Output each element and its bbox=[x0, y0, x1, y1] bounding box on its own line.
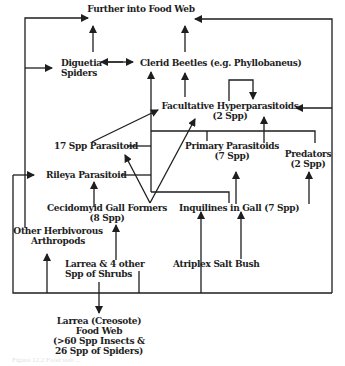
edge-frame-left-to-further bbox=[25, 18, 88, 228]
node-inquilines-in-gall: Inquilines in Gall (7 Spp) bbox=[179, 203, 299, 213]
node-label-line2: (2 Spp) bbox=[285, 159, 332, 169]
node-label-line1: Diguetia bbox=[61, 58, 102, 68]
node-17-spp-parasitoid: 17 Spp Parasitoid bbox=[54, 141, 138, 151]
node-label-line4: 26 Spp of Spiders) bbox=[53, 346, 145, 356]
node-label: Rileya Parasitoid bbox=[46, 170, 126, 180]
node-label-line3: (>60 Spp Insects & bbox=[53, 336, 145, 346]
node-primary-parasitoids: Primary Parasitoids(7 Spp) bbox=[185, 141, 279, 161]
node-label-line2: Spp of Shrubs bbox=[65, 269, 144, 279]
node-label-line2: (2 Spp) bbox=[161, 111, 298, 121]
node-further-into-food-web: Further into Food Web bbox=[87, 4, 195, 14]
node-atriplex-salt-bush: Atriplex Salt Bush bbox=[173, 259, 259, 269]
node-label: Clerid Beetles (e.g. Phyllobaneus) bbox=[140, 58, 302, 68]
edge-17spp-facultative bbox=[92, 110, 158, 142]
node-label-line2: Arthropods bbox=[13, 236, 102, 246]
node-label-line1: Predators bbox=[285, 149, 332, 159]
node-predators: Predators(2 Spp) bbox=[285, 149, 332, 169]
node-larrea-creosote-food-web: Larrea (Creosote)Food Web(>60 Spp Insect… bbox=[53, 316, 145, 356]
node-facultative-hyperparasitoids: Facultative Hyperparasitoids(2 Spp) bbox=[161, 101, 298, 121]
edge-cecid-17spp bbox=[125, 155, 150, 203]
node-clerid-beetles: Clerid Beetles (e.g. Phyllobaneus) bbox=[140, 58, 302, 68]
node-label-line1: Facultative Hyperparasitoids bbox=[161, 101, 298, 111]
node-larrea-shrubs: Larrea & 4 otherSpp of Shrubs bbox=[65, 259, 144, 279]
figure-caption: Figure 12.2 Food web ... bbox=[12, 356, 81, 364]
node-label: Further into Food Web bbox=[87, 4, 195, 14]
node-label: Atriplex Salt Bush bbox=[173, 259, 259, 269]
node-label-line2: (8 Spp) bbox=[47, 213, 167, 223]
node-label: 17 Spp Parasitoid bbox=[54, 141, 138, 151]
node-other-herbivorous-arthropods: Other HerbivorousArthropods bbox=[13, 226, 102, 246]
node-rileya-parasitoid: Rileya Parasitoid bbox=[46, 170, 126, 180]
node-label-line1: Larrea (Creosote) bbox=[53, 316, 145, 326]
food-web-diagram bbox=[0, 0, 345, 366]
edge-facultative-self-loop bbox=[229, 80, 253, 101]
node-label-line1: Cecidomyid Gall Formers bbox=[47, 203, 167, 213]
node-cecidomyid-gall-formers: Cecidomyid Gall Formers(8 Spp) bbox=[47, 203, 167, 223]
node-diguetia-spiders: DiguetiaSpiders bbox=[61, 58, 102, 78]
node-label-line1: Primary Parasitoids bbox=[185, 141, 279, 151]
node-label: Inquilines in Gall (7 Spp) bbox=[179, 203, 299, 213]
node-label-line2: Spiders bbox=[61, 68, 102, 78]
node-label-line2: (7 Spp) bbox=[185, 151, 279, 161]
edge-trunk-inquilines bbox=[151, 192, 229, 203]
node-label-line1: Other Herbivorous bbox=[13, 226, 102, 236]
node-label-line1: Larrea & 4 other bbox=[65, 259, 144, 269]
node-label-line2: Food Web bbox=[53, 326, 145, 336]
